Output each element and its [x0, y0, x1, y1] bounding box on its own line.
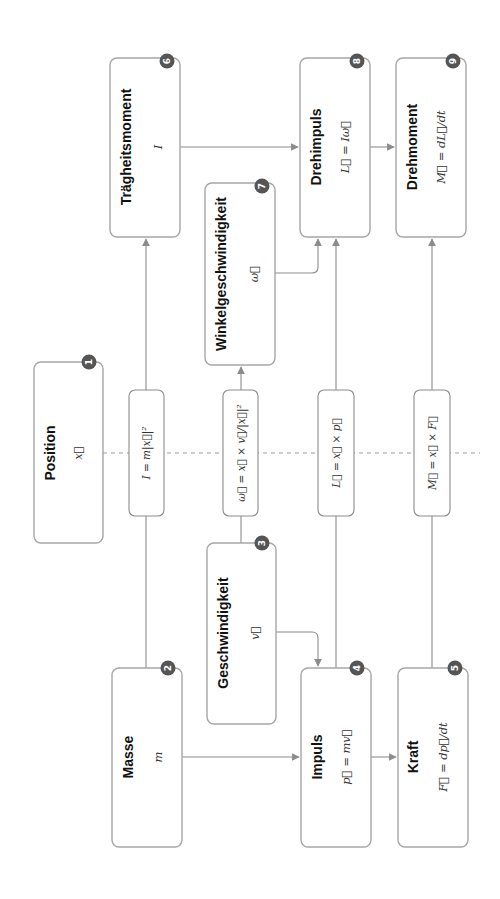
- node-title: Winkelgeschwindigkeit: [213, 197, 229, 351]
- node-title: Masse: [120, 735, 136, 778]
- node-formula: p⃗ = mv⃗: [339, 729, 353, 785]
- angular-momentum-formula-pill: L⃗ = x⃗ × p⃗: [318, 390, 354, 516]
- svg-text:4: 4: [352, 665, 362, 671]
- torque-formula: M⃗ = x⃗ × F⃗: [426, 416, 438, 491]
- angular-velocity-formula: ω⃗ = x⃗ × v⃗/|x⃗|²: [235, 404, 249, 501]
- torque-formula-pill: M⃗ = x⃗ × F⃗: [414, 390, 450, 516]
- node-impuls: Impuls p⃗ = mv⃗ 4: [301, 661, 371, 848]
- svg-text:8: 8: [352, 58, 362, 64]
- node-title: Drehmoment: [404, 103, 420, 190]
- svg-text:9: 9: [448, 58, 458, 64]
- node-title: Drehimpuls: [308, 108, 324, 185]
- node-title: Impuls: [309, 734, 325, 779]
- node-drehimpuls: Drehimpuls L⃗ = Iω⃗ 8: [300, 54, 370, 238]
- node-title: Trägheitsmoment: [118, 88, 134, 205]
- node-title: Kraft: [405, 740, 421, 773]
- node-geschwindigkeit: Geschwindigkeit v⃗ 3: [207, 536, 276, 725]
- node-title: Position: [42, 425, 58, 480]
- node-masse: Masse m 2: [112, 661, 182, 848]
- node-formula: m: [151, 751, 165, 762]
- node-formula: x⃗: [71, 446, 85, 459]
- svg-text:3: 3: [257, 540, 267, 546]
- node-formula: v⃗: [248, 626, 262, 639]
- angular-momentum-formula: L⃗ = x⃗ × p⃗: [330, 418, 342, 488]
- edge-winkelgeschwindigkeit-drehimpuls: [275, 239, 318, 273]
- svg-text:2: 2: [163, 665, 173, 671]
- node-kraft: Kraft F⃗ = dp⃗/dt 5: [398, 661, 468, 848]
- svg-text:1: 1: [84, 359, 94, 365]
- angular-velocity-formula-pill: ω⃗ = x⃗ × v⃗/|x⃗|²: [223, 390, 258, 516]
- inertia-formula: I = m|x⃗|²: [140, 426, 154, 480]
- node-formula: F⃗ = dp⃗/dt: [436, 722, 450, 793]
- node-formula: L⃗ = Iω⃗: [338, 121, 352, 174]
- physics-concept-diagram: I = m|x⃗|² ω⃗ = x⃗ × v⃗/|x⃗|² L⃗ = x⃗ × …: [0, 0, 500, 899]
- node-position: Position x⃗ 1: [34, 355, 103, 544]
- node-formula: ω⃗: [247, 266, 261, 282]
- inertia-formula-pill: I = m|x⃗|²: [129, 390, 164, 516]
- node-drehmoment: Drehmoment M⃗ = dL⃗/dt 9: [396, 54, 466, 238]
- node-formula: I: [151, 144, 165, 150]
- node-formula: M⃗ = dL⃗/dt: [434, 110, 448, 185]
- svg-text:6: 6: [162, 58, 172, 64]
- svg-text:7: 7: [257, 183, 267, 189]
- node-winkelgeschwindigkeit: Winkelgeschwindigkeit ω⃗ 7: [205, 179, 275, 366]
- edge-geschwindigkeit-impuls: [276, 632, 318, 666]
- node-title: Geschwindigkeit: [215, 577, 231, 689]
- svg-text:5: 5: [450, 665, 460, 671]
- node-traegheitsmoment: Trägheitsmoment I 6: [110, 54, 180, 238]
